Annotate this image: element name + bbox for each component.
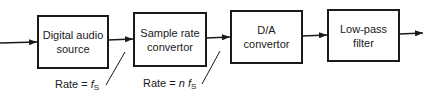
rate-label-fs: Rate = fS xyxy=(55,78,99,92)
arrow-da-to-lpf xyxy=(302,35,327,36)
input-arrow xyxy=(0,42,37,43)
rate-label-nfs: Rate = n fS xyxy=(143,77,196,91)
block-label-line2: convertor xyxy=(244,37,290,51)
block-label-line2: convertor xyxy=(147,40,193,54)
block-label-line1: Sample rate xyxy=(140,26,199,40)
block-label-line1: Low-pass xyxy=(340,22,387,36)
block-label-line1: D/A xyxy=(257,23,275,37)
block-label-line1: Digital audio xyxy=(43,28,104,42)
block-low-pass-filter: Low-pass filter xyxy=(327,9,400,62)
block-da-convertor: D/A convertor xyxy=(230,10,303,64)
rate-multiplier: n xyxy=(179,77,188,89)
arrow-source-to-src xyxy=(108,39,133,40)
arrow-src-to-da xyxy=(206,37,230,38)
block-digital-audio-source: Digital audio source xyxy=(37,15,109,69)
rate-subscript: S xyxy=(191,82,196,91)
block-sample-rate-convertor: Sample rate convertor xyxy=(133,12,207,67)
block-label-line2: filter xyxy=(353,36,374,50)
output-arrow xyxy=(399,33,423,34)
rate-subscript: S xyxy=(94,83,99,92)
block-label-line2: source xyxy=(56,42,89,56)
